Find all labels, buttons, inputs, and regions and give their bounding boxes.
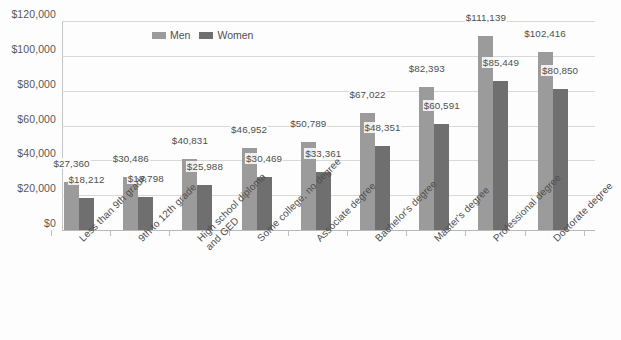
- bar-value-label: $30,469: [245, 153, 283, 164]
- bar-value-label: $67,022: [348, 89, 386, 100]
- x-axis-label: Less than 9th grade: [77, 236, 85, 244]
- bar-men[interactable]: [64, 182, 79, 230]
- bar-value-label: $18,212: [67, 174, 105, 185]
- y-axis-tick-label: $80,000: [0, 78, 56, 90]
- x-axis-tick: [169, 230, 170, 236]
- x-axis-label-line: 9th to 12th grade: [136, 236, 144, 244]
- x-axis-label: Some college, no degree: [255, 236, 263, 244]
- bar-value-label: $85,449: [482, 57, 520, 68]
- x-axis-label: 9th to 12th grade: [136, 236, 144, 244]
- y-axis-tick-label: $20,000: [0, 182, 56, 194]
- bar-value-label: $82,393: [408, 63, 446, 74]
- plot-area: $27,360$18,212$30,486$18,798$40,831$25,9…: [62, 21, 595, 230]
- y-axis-tick-label: $120,000: [0, 8, 56, 20]
- x-axis-label-line: and GED: [204, 244, 212, 252]
- y-axis-tick-label: $40,000: [0, 147, 56, 159]
- bar-women[interactable]: [553, 89, 568, 230]
- x-axis-tick: [347, 230, 348, 236]
- bar-value-label: $40,831: [171, 135, 209, 146]
- x-axis-label: Professional degree: [491, 236, 499, 244]
- x-axis-label-line: Associate degree: [314, 236, 322, 244]
- bar-chart: $120,000$100,000$80,000$60,000$40,000$20…: [0, 0, 621, 340]
- y-axis-tick-label: $60,000: [0, 113, 56, 125]
- x-axis-label: Master's degree: [432, 236, 440, 244]
- bar-value-label: $27,360: [52, 158, 90, 169]
- x-axis-label-line: High school diploma: [195, 236, 203, 244]
- bar-value-label: $46,952: [230, 124, 268, 135]
- x-axis-label: Associate degree: [314, 236, 322, 244]
- x-axis-label: High school diplomaand GED: [195, 236, 211, 252]
- bar-value-label: $60,591: [423, 100, 461, 111]
- y-axis-tick-label: $0: [0, 217, 56, 229]
- x-axis-label-line: Bachelor's degree: [373, 236, 381, 244]
- bar-value-label: $50,789: [289, 118, 327, 129]
- bar-value-label: $111,139: [465, 12, 507, 23]
- bar-value-label: $80,850: [541, 65, 579, 76]
- x-axis-label-line: Some college, no degree: [255, 236, 263, 244]
- bar-value-label: $48,351: [363, 122, 401, 133]
- x-axis-tick: [406, 230, 407, 236]
- y-axis-tick-label: $100,000: [0, 43, 56, 55]
- x-axis-label-line: Master's degree: [432, 236, 440, 244]
- x-axis-tick: [525, 230, 526, 236]
- bar-women[interactable]: [434, 124, 449, 230]
- x-axis-label-line: Professional degree: [491, 236, 499, 244]
- bar-value-label: $102,416: [523, 28, 567, 39]
- x-axis-tick: [288, 230, 289, 236]
- x-axis-tick: [110, 230, 111, 236]
- bar-men[interactable]: [538, 52, 553, 230]
- bar-group: $27,360$18,212: [64, 21, 94, 230]
- x-axis-label-line: Less than 9th grade: [77, 236, 85, 244]
- x-axis-tick: [465, 230, 466, 236]
- x-axis-label-line: Doctorate degree: [551, 236, 559, 244]
- bar-value-label: $25,988: [186, 161, 224, 172]
- bar-value-label: $30,486: [112, 153, 150, 164]
- x-axis-label: Doctorate degree: [551, 236, 559, 244]
- x-axis-tick: [584, 230, 585, 236]
- x-axis-tick: [51, 230, 52, 236]
- x-axis-label: Bachelor's degree: [373, 236, 381, 244]
- bar-women[interactable]: [493, 81, 508, 230]
